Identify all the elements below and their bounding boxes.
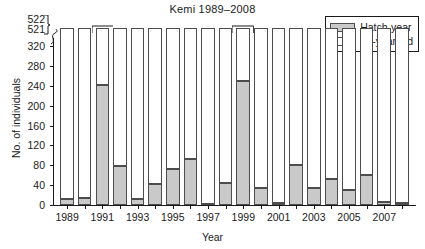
x-axis-tick — [384, 206, 385, 209]
x-axis-tick-label-1993: 1993 — [118, 211, 158, 223]
bar-segment-plus-one-year-old — [148, 28, 162, 184]
x-axis-tick — [349, 206, 350, 209]
chart-title: Kemi 1989–2008 — [0, 3, 425, 15]
bar-2004[interactable] — [325, 28, 339, 205]
bar-2003[interactable] — [307, 28, 321, 205]
chart-figure: Kemi 1989–2008 No. of individuals Year H… — [0, 0, 425, 249]
y-axis-tick-label: 160 — [11, 121, 45, 131]
bar-segment-hatch-year — [60, 199, 74, 205]
y-axis-tick — [50, 46, 53, 47]
bar-segment-hatch-year — [325, 179, 339, 205]
bar-segment-plus-one-year-old — [360, 28, 374, 175]
x-axis-tick — [279, 206, 280, 209]
bar-segment-plus-one-year-old — [60, 28, 74, 199]
x-axis-tick — [208, 206, 209, 209]
x-axis-tick — [67, 206, 68, 209]
x-axis-tick — [102, 206, 103, 209]
bar-segment-hatch-year — [131, 199, 145, 205]
bar-segment-hatch-year — [254, 188, 268, 205]
bar-2001[interactable] — [272, 28, 286, 205]
bar-segment-plus-one-year-old — [342, 28, 356, 190]
axis-break-bracket — [44, 15, 51, 35]
bar-1992[interactable] — [113, 28, 127, 205]
y-axis-tick — [50, 165, 53, 166]
x-axis-tick-label-1989: 1989 — [47, 211, 87, 223]
x-axis-tick-label-1995: 1995 — [153, 211, 193, 223]
bar-break-gap — [237, 34, 249, 38]
y-axis-tick — [50, 106, 53, 107]
bar-segment-plus-one-year-old — [201, 28, 215, 204]
x-axis-tick-label-1999: 1999 — [223, 211, 263, 223]
bar-segment-hatch-year — [113, 166, 127, 205]
bar-2002[interactable] — [289, 28, 303, 205]
x-axis-tick-label-2005: 2005 — [329, 211, 369, 223]
x-axis-tick — [190, 206, 191, 209]
bar-segment-plus-one-year-old — [184, 28, 198, 159]
bar-2006[interactable] — [360, 28, 374, 205]
bar-1998[interactable] — [219, 28, 233, 205]
y-axis-tick — [50, 126, 53, 127]
bar-segment-plus-one-year-old — [272, 28, 286, 203]
bar-segment-plus-one-year-old — [325, 28, 339, 179]
y-axis-tick-label: 240 — [11, 81, 45, 91]
bar-2008[interactable] — [395, 28, 409, 205]
bar-segment-plus-one-year-old — [307, 28, 321, 188]
y-axis-line — [53, 38, 54, 206]
x-axis-tick-label-1997: 1997 — [188, 211, 228, 223]
y-axis-tick — [50, 185, 53, 186]
y-axis-tick-label: 0 — [11, 200, 45, 210]
bar-segment-hatch-year — [184, 159, 198, 205]
x-axis-label: Year — [0, 231, 425, 243]
bar-1995[interactable] — [166, 28, 180, 205]
bar-segment-hatch-year — [219, 183, 233, 205]
bar-truncation-bracket — [92, 20, 114, 29]
bar-segment-plus-one-year-old — [395, 28, 409, 203]
bar-1994[interactable] — [148, 28, 162, 205]
y-axis-tick — [50, 86, 53, 87]
y-axis-tick — [50, 145, 53, 146]
bar-segment-hatch-year — [96, 85, 110, 205]
y-axis-break-label-lower: 521 — [11, 24, 45, 34]
y-axis-tick-label: 80 — [11, 160, 45, 170]
bar-segment-hatch-year — [307, 188, 321, 205]
x-axis-tick — [261, 206, 262, 209]
x-axis-tick — [296, 206, 297, 209]
x-axis-tick — [226, 206, 227, 209]
bar-segment-plus-one-year-old — [131, 28, 145, 199]
bar-1993[interactable] — [131, 28, 145, 205]
bar-segment-hatch-year — [148, 184, 162, 205]
bar-1997[interactable] — [201, 28, 215, 205]
x-axis-tick-label-1991: 1991 — [82, 211, 122, 223]
bar-segment-plus-one-year-old — [166, 28, 180, 169]
bar-segment-hatch-year — [360, 175, 374, 205]
bar-2005[interactable] — [342, 28, 356, 205]
x-axis-tick — [243, 206, 244, 209]
bar-1989[interactable] — [60, 28, 74, 205]
y-axis-tick-label: 120 — [11, 140, 45, 150]
x-axis-line — [53, 205, 416, 206]
bar-segment-plus-one-year-old — [219, 28, 233, 183]
bar-2007[interactable] — [377, 28, 391, 205]
y-axis-tick — [50, 66, 53, 67]
x-axis-tick — [120, 206, 121, 209]
x-axis-tick — [314, 206, 315, 209]
x-axis-tick — [402, 206, 403, 209]
bar-1990[interactable] — [78, 28, 92, 205]
x-axis-tick-label-2001: 2001 — [259, 211, 299, 223]
x-axis-tick — [331, 206, 332, 209]
y-axis-tick — [50, 205, 53, 206]
bar-1996[interactable] — [184, 28, 198, 205]
bar-segment-plus-one-year-old — [113, 28, 127, 166]
y-axis-tick-label: 40 — [11, 180, 45, 190]
bar-truncation-bracket — [232, 20, 254, 29]
x-axis-tick-label-2003: 2003 — [294, 211, 334, 223]
bar-segment-hatch-year — [377, 202, 391, 206]
y-axis-tick-label: 280 — [11, 61, 45, 71]
x-axis-tick — [173, 206, 174, 209]
bar-1991[interactable] — [96, 28, 110, 205]
bar-2000[interactable] — [254, 28, 268, 205]
x-axis-tick — [85, 206, 86, 209]
bar-1999[interactable] — [236, 28, 250, 205]
x-axis-tick-label-2007: 2007 — [364, 211, 404, 223]
bar-segment-plus-one-year-old — [377, 28, 391, 202]
